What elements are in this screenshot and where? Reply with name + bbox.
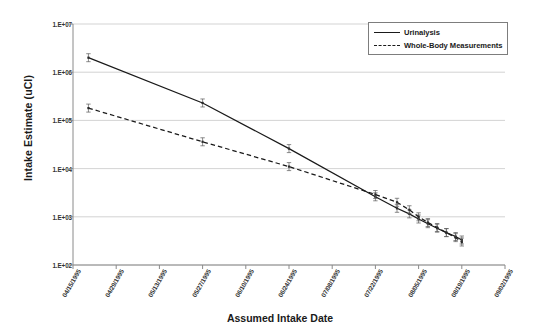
data-point-marker — [455, 237, 457, 239]
data-point-marker — [396, 207, 398, 209]
data-point-marker — [87, 107, 89, 109]
legend-label: Whole-Body Measurements — [404, 41, 502, 50]
chart-legend: Urinalysis Whole-Body Measurements — [368, 22, 508, 55]
legend-dashed-line-icon — [374, 42, 400, 50]
data-point-marker — [396, 201, 398, 203]
legend-item-whole-body-measurements: Whole-Body Measurements — [374, 39, 502, 52]
data-point-marker — [202, 102, 204, 104]
series-line-urinalysis — [88, 58, 461, 240]
data-point-marker — [288, 166, 290, 168]
data-point-marker — [436, 226, 438, 228]
data-point-marker — [427, 221, 429, 223]
legend-solid-line-icon — [374, 29, 400, 37]
legend-item-urinalysis: Urinalysis — [374, 26, 440, 39]
chart-container: Intake Estimate (uCI) Assumed Intake Dat… — [0, 0, 545, 335]
data-point-marker — [288, 147, 290, 149]
data-point-marker — [408, 209, 410, 211]
data-point-marker — [418, 216, 420, 218]
data-point-marker — [202, 141, 204, 143]
data-point-marker — [374, 193, 376, 195]
series-line-whole-body-measurements — [88, 108, 461, 242]
data-point-marker — [87, 57, 89, 59]
data-point-marker — [461, 241, 463, 243]
data-point-marker — [445, 232, 447, 234]
legend-label: Urinalysis — [404, 28, 440, 37]
